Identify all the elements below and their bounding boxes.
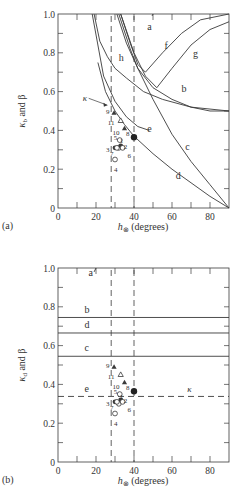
y-tick-label: 0.4 bbox=[43, 380, 55, 390]
curve-label-d: d bbox=[85, 319, 90, 330]
curve-g bbox=[121, 14, 229, 88]
x-tick-label: 0 bbox=[56, 466, 61, 476]
panel-b-chart: 02040608000.20.40.60.81.0abcde1234567891… bbox=[2, 264, 229, 489]
curve-label-e: e bbox=[147, 123, 152, 134]
point-label-11: 11 bbox=[108, 119, 115, 127]
point-label-10: 10 bbox=[113, 383, 121, 391]
point-label-10: 10 bbox=[113, 129, 121, 137]
y-tick-label: 1.0 bbox=[43, 10, 55, 20]
point-label-4: 4 bbox=[114, 166, 118, 174]
x-tick-label: 20 bbox=[91, 466, 101, 476]
curve-h bbox=[94, 14, 229, 111]
kappa-annotation: κ bbox=[187, 384, 192, 394]
data-point-9 bbox=[111, 364, 116, 369]
y-tick-label: 0 bbox=[50, 204, 55, 214]
curve-label-h: h bbox=[119, 52, 124, 63]
curve-label-g: g bbox=[193, 48, 198, 59]
data-point-8 bbox=[131, 134, 137, 140]
x-tick-label: 80 bbox=[205, 212, 215, 222]
x-tick-label: 80 bbox=[205, 466, 215, 476]
y-tick-label: 0.6 bbox=[43, 87, 55, 97]
curve-f bbox=[121, 14, 229, 72]
point-label-2: 2 bbox=[124, 143, 128, 151]
kappa-annotation: κ bbox=[83, 93, 88, 103]
point-label-2: 2 bbox=[124, 397, 128, 405]
y-tick-label: 1.0 bbox=[43, 264, 55, 274]
x-tick-label: 20 bbox=[91, 212, 101, 222]
y-tick-label: 0 bbox=[50, 458, 55, 468]
figure: 02040608000.20.40.60.81.0abcdefgh1234567… bbox=[0, 0, 241, 504]
x-axis-label: h⊗ (degrees) bbox=[118, 221, 169, 234]
x-tick-label: 60 bbox=[167, 212, 177, 222]
curve-label-b: b bbox=[85, 304, 90, 315]
plot-frame bbox=[58, 268, 229, 462]
point-label-7: 7 bbox=[110, 150, 114, 158]
curve-label-c: c bbox=[85, 342, 90, 353]
point-label-4: 4 bbox=[114, 420, 118, 428]
y-tick-label: 0.6 bbox=[43, 341, 55, 351]
point-label-6: 6 bbox=[128, 152, 132, 160]
point-label-11: 11 bbox=[108, 373, 115, 381]
curve-label-f: f bbox=[164, 40, 168, 51]
curve-label-e: e bbox=[85, 383, 90, 394]
curve-label-d: d bbox=[176, 170, 181, 181]
data-point-11 bbox=[118, 118, 123, 123]
curve-label-c: c bbox=[185, 141, 190, 152]
data-point-8 bbox=[131, 388, 137, 394]
y-tick-label: 0.8 bbox=[43, 302, 55, 312]
point-label-6: 6 bbox=[128, 406, 132, 414]
y-axis-label: κd and β bbox=[16, 349, 29, 382]
x-tick-label: 60 bbox=[167, 466, 177, 476]
panel-label: (a) bbox=[2, 220, 13, 232]
x-tick-label: 0 bbox=[56, 212, 61, 222]
point-label-9: 9 bbox=[106, 108, 110, 116]
point-label-9: 9 bbox=[106, 362, 110, 370]
curve-label-a: a bbox=[88, 267, 93, 278]
data-point-11 bbox=[118, 372, 123, 377]
data-point-7 bbox=[115, 399, 120, 404]
y-tick-label: 0.4 bbox=[43, 126, 55, 136]
point-label-8: 8 bbox=[126, 384, 130, 392]
data-point-7 bbox=[115, 145, 120, 150]
panel-label: (b) bbox=[2, 474, 14, 486]
plot-frame bbox=[58, 14, 229, 208]
y-tick-label: 0.8 bbox=[43, 48, 55, 58]
panel-a-chart: 02040608000.20.40.60.81.0abcdefgh1234567… bbox=[2, 10, 229, 235]
y-tick-label: 0.2 bbox=[43, 419, 55, 429]
point-label-7: 7 bbox=[110, 404, 114, 412]
x-axis-label: h⊗ (degrees) bbox=[118, 475, 169, 488]
y-axis-label: κb and β bbox=[16, 95, 29, 128]
y-tick-label: 0.2 bbox=[43, 165, 55, 175]
curve-label-a: a bbox=[147, 21, 152, 32]
point-label-8: 8 bbox=[126, 130, 130, 138]
curve-label-b: b bbox=[182, 83, 187, 94]
